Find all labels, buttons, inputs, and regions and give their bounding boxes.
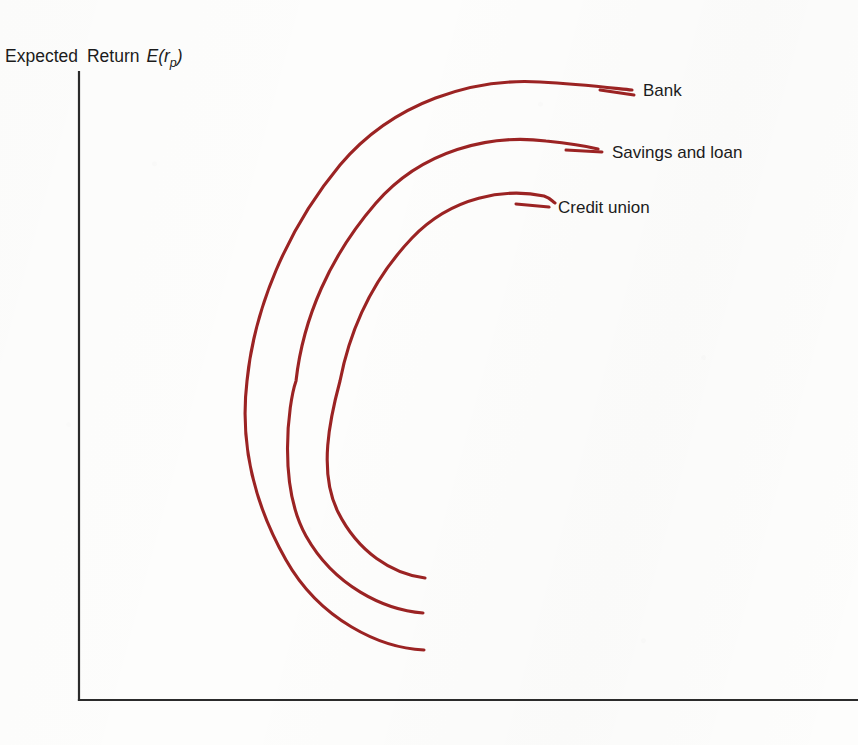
- axes-group: [79, 72, 858, 700]
- y-axis-label-close-paren: ): [175, 46, 183, 66]
- series-labels-group: Bank Savings and loan Credit union: [558, 81, 742, 217]
- y-axis-label-return: Return: [87, 46, 140, 66]
- efficient-frontier-chart: ExpectedReturnE(rp) Bank Savings and loa…: [0, 0, 858, 745]
- frontier-curve-savings-and-loan: [288, 139, 599, 613]
- y-axis-label-expected: Expected: [5, 46, 78, 66]
- series-label-bank: Bank: [643, 81, 682, 100]
- series-label-credit-union: Credit union: [558, 198, 650, 217]
- leader-line-savings-and-loan: [566, 150, 602, 152]
- frontier-curves-group: [245, 82, 632, 650]
- y-axis-label-symbol: E(r: [147, 46, 172, 66]
- frontier-curve-bank: [245, 82, 632, 650]
- frontier-curve-credit-union: [327, 193, 555, 578]
- y-axis-label: ExpectedReturnE(rp): [5, 46, 183, 70]
- y-axis-label-subscript: p: [169, 56, 177, 70]
- leader-line-credit-union: [516, 204, 549, 207]
- series-label-savings-and-loan: Savings and loan: [612, 143, 742, 162]
- chart-page: ExpectedReturnE(rp) Bank Savings and loa…: [0, 0, 858, 745]
